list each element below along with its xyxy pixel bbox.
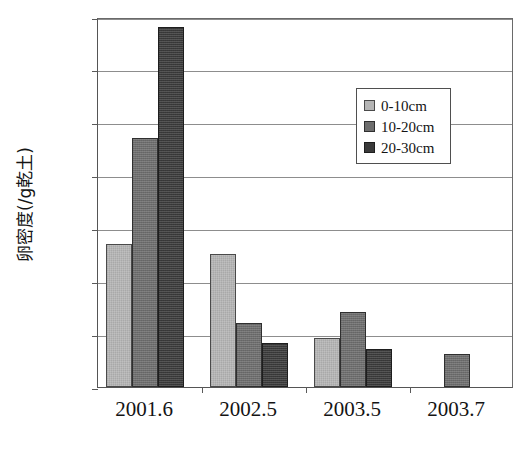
legend-item: 10-20cm — [364, 116, 444, 137]
bar — [106, 244, 132, 387]
bar — [236, 323, 262, 387]
y-axis-title: 卵密度(/g乾土) — [11, 105, 36, 305]
legend-swatch-icon — [364, 142, 375, 153]
legend-item: 20-30cm — [364, 137, 444, 158]
x-tick-mark — [202, 387, 203, 393]
bar — [132, 138, 158, 387]
bar-group — [98, 19, 202, 387]
legend-swatch-icon — [364, 100, 375, 111]
bar-chart-figure: 卵密度(/g乾土) 050100150200250300350 2001.620… — [0, 0, 525, 451]
bar — [210, 254, 236, 387]
bar — [158, 27, 184, 387]
bar — [262, 343, 288, 387]
bar-group — [202, 19, 306, 387]
bar — [314, 338, 340, 387]
y-tick-mark — [92, 389, 98, 390]
bar — [366, 349, 392, 387]
legend-label: 10-20cm — [381, 119, 434, 135]
legend-label: 0-10cm — [381, 98, 427, 114]
x-tick-mark — [306, 387, 307, 393]
chart-legend: 0-10cm10-20cm20-30cm — [356, 88, 451, 164]
legend-swatch-icon — [364, 121, 375, 132]
x-tick-mark — [410, 387, 411, 393]
x-tick-label: 2003.7 — [396, 398, 516, 420]
figure-caption — [0, 438, 525, 451]
bar-group — [306, 19, 410, 387]
x-tick-label: 2003.5 — [292, 398, 412, 420]
bar — [444, 354, 470, 387]
legend-label: 20-30cm — [381, 140, 434, 156]
bar — [340, 312, 366, 387]
x-tick-label: 2001.6 — [84, 398, 204, 420]
plot-area — [97, 18, 513, 388]
legend-item: 0-10cm — [364, 95, 444, 116]
bar-group — [410, 19, 514, 387]
x-tick-label: 2002.5 — [188, 398, 308, 420]
